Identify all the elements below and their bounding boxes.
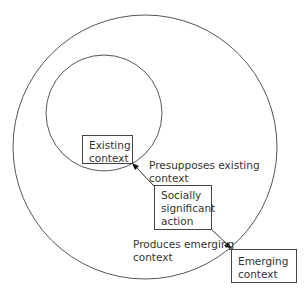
existing-context-box: Existing context [82, 135, 133, 164]
socially-significant-action-box: Socially significant action [154, 185, 212, 230]
emerging-context-box: Emerging context [231, 249, 297, 283]
presupposes-label: Presupposes existing context [149, 159, 260, 185]
produces-label: Produces emerging context [133, 238, 234, 264]
